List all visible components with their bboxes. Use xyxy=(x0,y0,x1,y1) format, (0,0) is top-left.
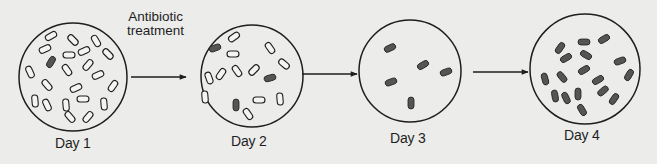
susceptible-bacterium-icon xyxy=(248,64,261,77)
susceptible-bacterium-icon xyxy=(204,71,214,84)
susceptible-bacterium-icon xyxy=(276,93,283,105)
day-2-label: Day 2 xyxy=(231,133,267,149)
resistant-bacterium-icon xyxy=(45,55,56,68)
susceptible-bacterium-icon xyxy=(91,70,104,81)
day-4-dish xyxy=(530,14,640,124)
susceptible-bacterium-icon xyxy=(44,30,57,41)
susceptible-bacterium-icon xyxy=(67,34,80,47)
susceptible-bacterium-icon xyxy=(41,78,53,91)
susceptible-bacterium-icon xyxy=(277,58,290,70)
resistant-bacterium-icon xyxy=(575,88,581,100)
resistant-bacterium-icon xyxy=(233,99,239,111)
day-3-label: Day 3 xyxy=(390,130,426,146)
resistant-bacterium-icon xyxy=(439,67,452,77)
resistant-bacterium-icon xyxy=(263,74,276,83)
day-2-dish xyxy=(201,25,303,127)
annotation-line-1: Antibiotic xyxy=(127,10,184,24)
resistant-bacterium-icon xyxy=(408,97,414,109)
day-3-dish xyxy=(359,20,461,122)
susceptible-bacterium-icon xyxy=(25,65,36,78)
resistant-bacterium-icon xyxy=(578,39,590,45)
susceptible-bacterium-icon xyxy=(264,41,276,54)
susceptible-bacterium-icon xyxy=(100,98,107,110)
susceptible-bacterium-icon xyxy=(227,31,240,43)
susceptible-bacterium-icon xyxy=(42,98,53,111)
resistant-bacterium-icon xyxy=(559,52,572,63)
annotation-line-2: treatment xyxy=(127,24,184,38)
resistant-bacterium-icon xyxy=(623,68,634,81)
susceptible-bacterium-icon xyxy=(242,107,254,120)
resistant-bacterium-icon xyxy=(551,90,559,103)
susceptible-bacterium-icon xyxy=(77,46,90,57)
susceptible-bacterium-icon xyxy=(69,83,82,94)
resistant-bacterium-icon xyxy=(554,41,566,54)
susceptible-bacterium-icon xyxy=(38,44,51,55)
susceptible-bacterium-icon xyxy=(215,67,227,80)
resistant-bacterium-icon xyxy=(561,91,572,104)
day-1-label: Day 1 xyxy=(55,135,91,151)
susceptible-bacterium-icon xyxy=(102,48,115,61)
resistant-bacterium-icon xyxy=(541,72,550,85)
susceptible-bacterium-icon xyxy=(31,95,38,107)
susceptible-bacterium-icon xyxy=(62,99,69,111)
day-1-dish xyxy=(19,23,127,131)
antibiotic-resistance-diagram: Antibiotic treatment Day 1 Day 2 Day 3 D… xyxy=(0,0,657,164)
susceptible-bacterium-icon xyxy=(253,97,265,103)
resistant-bacterium-icon xyxy=(384,77,397,87)
resistant-bacterium-icon xyxy=(556,70,568,83)
susceptible-bacterium-icon xyxy=(90,34,101,47)
susceptible-bacterium-icon xyxy=(82,110,94,123)
resistant-bacterium-icon xyxy=(416,59,429,70)
resistant-bacterium-icon xyxy=(591,74,604,85)
susceptible-bacterium-icon xyxy=(227,51,239,57)
susceptible-bacterium-icon xyxy=(82,58,94,71)
resistant-bacterium-icon xyxy=(613,56,626,66)
susceptible-bacterium-icon xyxy=(61,63,73,76)
antibiotic-treatment-annotation: Antibiotic treatment xyxy=(127,10,184,38)
resistant-bacterium-icon xyxy=(383,43,396,54)
resistant-bacterium-icon xyxy=(208,43,221,53)
susceptible-bacterium-icon xyxy=(201,91,208,103)
resistant-bacterium-icon xyxy=(608,92,620,105)
resistant-bacterium-icon xyxy=(597,33,610,44)
susceptible-bacterium-icon xyxy=(64,110,76,123)
susceptible-bacterium-icon xyxy=(231,64,243,77)
resistant-bacterium-icon xyxy=(576,103,587,116)
resistant-bacterium-icon xyxy=(579,49,592,60)
susceptible-bacterium-icon xyxy=(107,79,119,92)
susceptible-bacterium-icon xyxy=(63,52,75,58)
day-4-label: Day 4 xyxy=(564,127,600,143)
resistant-bacterium-icon xyxy=(596,85,609,97)
diagram-canvas xyxy=(0,0,657,164)
susceptible-bacterium-icon xyxy=(77,96,89,102)
resistant-bacterium-icon xyxy=(577,64,590,75)
